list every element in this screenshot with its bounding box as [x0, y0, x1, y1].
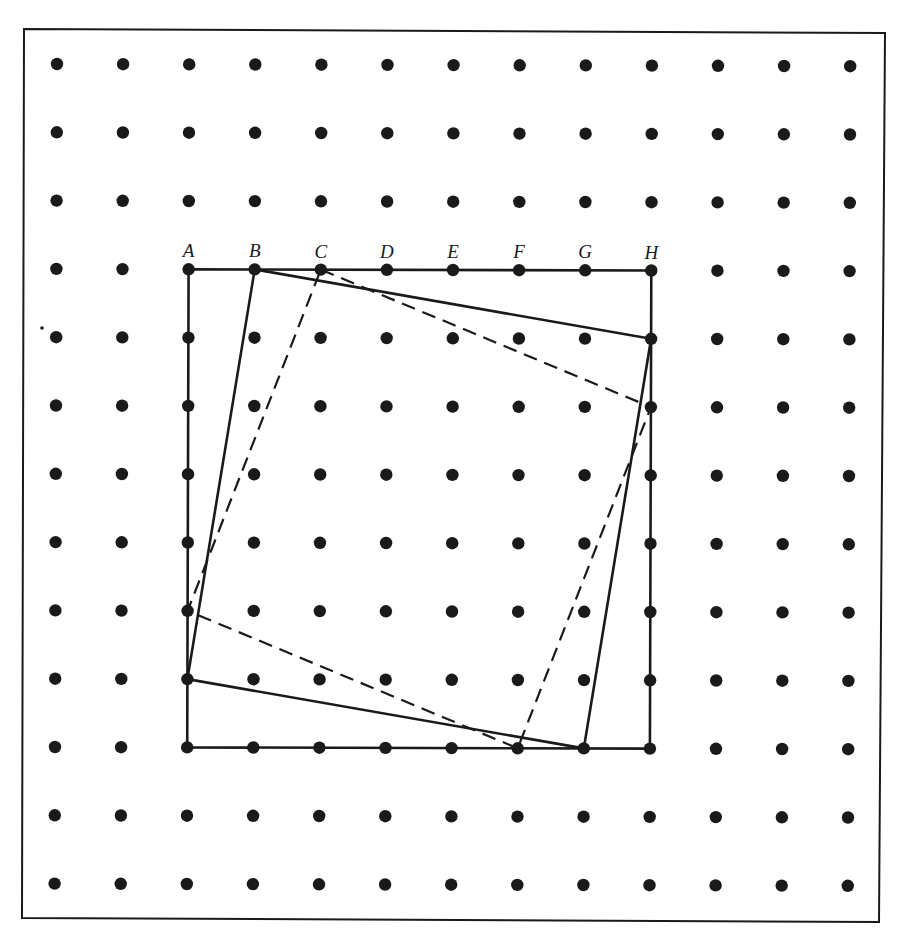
vertex-label-f: F — [512, 241, 525, 262]
grid-dot — [314, 468, 326, 480]
grid-dot — [50, 331, 62, 343]
grid-dot — [447, 332, 459, 344]
grid-dot — [117, 126, 129, 138]
grid-dot — [843, 470, 855, 482]
grid-dot — [247, 673, 259, 685]
grid-dot — [181, 878, 193, 890]
grid-dot — [579, 128, 591, 140]
grid-dot — [644, 674, 656, 686]
grid-dot — [115, 673, 127, 685]
grid-dot — [49, 741, 61, 753]
grid-dot — [248, 605, 260, 617]
vertex-label-h: H — [643, 242, 659, 263]
grid-dot — [709, 879, 721, 891]
grid-dot — [313, 810, 325, 822]
grid-dot — [776, 811, 788, 823]
grid-dot — [247, 810, 259, 822]
grid-dot — [116, 331, 128, 343]
grid-dot — [315, 195, 327, 207]
grid-dot — [117, 195, 129, 207]
grid-dot — [115, 878, 127, 890]
grid-dot — [712, 128, 724, 140]
grid-dot — [380, 605, 392, 617]
grid-dot — [710, 743, 722, 755]
grid-dot — [580, 59, 592, 71]
vertex-label-a: A — [181, 240, 195, 261]
grid-dot — [645, 264, 657, 276]
grid-dot — [778, 196, 790, 208]
grid-dot — [50, 399, 62, 411]
grid-dot — [844, 197, 856, 209]
grid-dot — [842, 675, 854, 687]
grid-dot — [51, 58, 63, 70]
grid-dot — [843, 333, 855, 345]
geoboard-diagram: ABCDEFGH — [0, 0, 903, 936]
grid-dot — [711, 469, 723, 481]
grid-dot — [183, 58, 195, 70]
grid-dot — [843, 538, 855, 550]
grid-dot — [513, 401, 525, 413]
grid-dot — [776, 606, 788, 618]
grid-dot — [447, 264, 459, 276]
grid-dot — [381, 127, 393, 139]
vertex-label-d: D — [379, 241, 394, 262]
grid-dot — [115, 604, 127, 616]
grid-dot — [183, 127, 195, 139]
grid-dot — [778, 128, 790, 140]
grid-dot — [512, 469, 524, 481]
grid-dot — [49, 604, 61, 616]
grid-dot — [577, 879, 589, 891]
grid-dot — [842, 743, 854, 755]
grid-dot — [49, 673, 61, 685]
grid-dot — [711, 401, 723, 413]
stray-speck — [40, 326, 44, 330]
grid-dot — [181, 741, 193, 753]
grid-dot — [711, 333, 723, 345]
grid-dot — [446, 605, 458, 617]
grid-dot — [446, 469, 458, 481]
grid-dot — [578, 674, 590, 686]
grid-dot — [712, 60, 724, 72]
grid-dot — [51, 126, 63, 138]
grid-dot — [842, 811, 854, 823]
grid-dot — [644, 606, 656, 618]
grid-dot — [182, 263, 194, 275]
grid-dot — [645, 196, 657, 208]
grid-dot — [381, 195, 393, 207]
grid-dot — [181, 810, 193, 822]
grid-dot — [314, 605, 326, 617]
grid-dot — [645, 333, 657, 345]
grid-dot — [513, 127, 525, 139]
grid-dot — [182, 536, 194, 548]
grid-dot — [645, 469, 657, 481]
grid-dot — [379, 742, 391, 754]
grid-dot — [711, 196, 723, 208]
grid-dot — [380, 537, 392, 549]
grid-dot — [50, 194, 62, 206]
grid-dot — [644, 742, 656, 754]
grid-dot — [313, 673, 325, 685]
grid-dot — [777, 265, 789, 277]
grid-dot — [511, 879, 523, 891]
grid-dot — [777, 538, 789, 550]
grid-dot — [182, 331, 194, 343]
vertex-label-c: C — [314, 241, 327, 262]
grid-dot — [181, 605, 193, 617]
grid-dot — [513, 264, 525, 276]
grid-dot — [116, 536, 128, 548]
grid-dot — [577, 811, 589, 823]
grid-dot — [249, 127, 261, 139]
grid-dot — [315, 127, 327, 139]
grid-dot — [380, 400, 392, 412]
grid-dot — [447, 127, 459, 139]
grid-dot — [579, 264, 591, 276]
grid-dot — [50, 263, 62, 275]
grid-dot — [578, 606, 590, 618]
grid-dot — [447, 196, 459, 208]
grid-dot — [644, 538, 656, 550]
vertex-label-b: B — [249, 240, 261, 261]
grid-dot — [447, 59, 459, 71]
grid-dot — [646, 59, 658, 71]
grid-dot — [578, 537, 590, 549]
grid-dot — [514, 59, 526, 71]
